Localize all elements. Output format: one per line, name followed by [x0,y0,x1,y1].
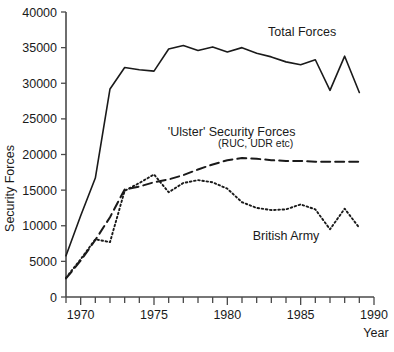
y-tick-label: 15000 [22,184,57,198]
series-line-dashed [66,158,359,278]
series-line-solid [66,45,359,255]
x-axis: 19701975198019851990 [66,297,388,322]
y-tick-label: 10000 [22,219,57,233]
x-tick-label: 1980 [213,308,241,322]
y-tick-label: 35000 [22,41,57,55]
y-tick-label: 40000 [22,6,57,20]
x-tick-label: 1985 [287,308,315,322]
series-annotations-layer: Total Forces'Ulster' Security Forces(RUC… [168,25,336,243]
series-label: British Army [253,229,320,243]
y-axis-title: Security Forces [3,145,17,232]
axis-titles-layer: Security ForcesYear [3,145,389,340]
y-tick-label: 30000 [22,77,57,91]
x-axis-title: Year [363,326,388,340]
chart-container: 0500010000150002000025000300003500040000… [0,0,394,352]
x-tick-label: 1975 [140,308,168,322]
y-tick-label: 5000 [29,255,57,269]
x-tick-label: 1990 [360,308,388,322]
y-tick-label: 20000 [22,148,57,162]
series-label: Total Forces [268,25,336,39]
y-tick-label: 25000 [22,112,57,126]
series-sublabel: (RUC, UDR etc) [218,137,293,149]
series-line-dotted [66,174,359,277]
security-forces-line-chart: 0500010000150002000025000300003500040000… [0,0,394,352]
data-series-layer [66,45,359,278]
y-axis: 0500010000150002000025000300003500040000 [22,6,66,305]
x-tick-label: 1970 [67,308,95,322]
y-tick-label: 0 [50,291,57,305]
